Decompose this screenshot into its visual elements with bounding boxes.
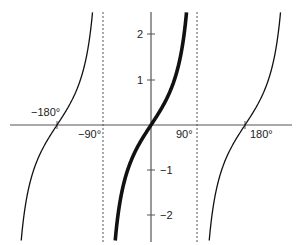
y-tick-label-1: 1: [137, 74, 143, 86]
x-tick-label-neg90: −90°: [78, 128, 101, 140]
x-tick-label-neg180: −180°: [31, 106, 60, 118]
y-tick-label-neg1: −1: [160, 164, 173, 176]
x-tick-label-pos180: 180°: [250, 128, 273, 140]
y-tick-label-neg2: −2: [160, 209, 173, 221]
x-tick-label-pos90: 90°: [176, 128, 193, 140]
tangent-graph: 2 1 −1 −2 −180° −90° 90° 180°: [0, 0, 299, 245]
y-tick-label-2: 2: [137, 28, 143, 40]
